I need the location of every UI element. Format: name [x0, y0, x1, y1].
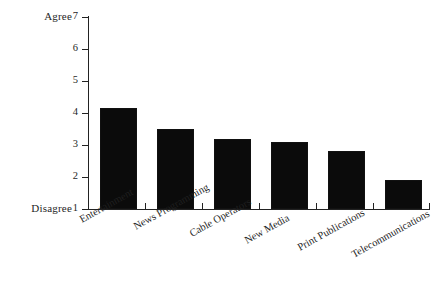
y-tick-label-wrap-4: 4 [58, 107, 78, 119]
y-tick-label-wrap-2: 2 [58, 171, 78, 183]
bar-new-media [271, 142, 308, 209]
y-tick-label-2: 2 [64, 171, 78, 182]
x-tick-3 [259, 203, 260, 210]
y-tick-label-4: 4 [64, 107, 78, 118]
y-tick-label-wrap-5: 5 [58, 75, 78, 87]
y-tick-label-wrap-6: 6 [58, 43, 78, 55]
y-tick-6 [82, 49, 89, 50]
bar-print-publications [328, 151, 365, 209]
y-tick-label-3: 3 [64, 139, 78, 150]
y-tick-2 [82, 177, 89, 178]
bar-chart: Agree Disagree 7654321 EntertainmentNews… [0, 0, 443, 286]
x-label-new-media: New Media [243, 213, 291, 246]
y-tick-5 [82, 81, 89, 82]
x-tick-5 [373, 203, 374, 210]
y-tick-label-5: 5 [64, 75, 78, 86]
y-tick-label-1: 1 [64, 203, 78, 214]
x-tick-1 [145, 203, 146, 210]
y-tick-label-wrap-3: 3 [58, 139, 78, 151]
y-tick-label-6: 6 [64, 43, 78, 54]
y-tick-3 [82, 145, 89, 146]
x-tick-2 [202, 203, 203, 210]
y-tick-4 [82, 113, 89, 114]
y-tick-label-wrap-7: 7 [58, 11, 78, 23]
x-tick-4 [316, 203, 317, 210]
y-tick-label-wrap-1: 1 [58, 203, 78, 215]
y-tick-7 [82, 17, 89, 18]
x-axis-end-tick [429, 203, 430, 210]
y-tick-label-7: 7 [64, 11, 78, 22]
bar-telecommunications [385, 180, 422, 209]
